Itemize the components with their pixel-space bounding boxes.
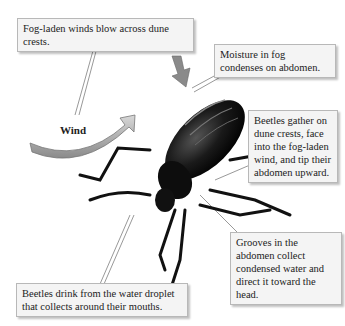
callout-moisture: Moisture in fog condenses on abdomen.	[214, 44, 336, 78]
wind-label: Wind	[60, 124, 86, 136]
callout-gather: Beetles gather on dune crests, face into…	[248, 110, 338, 183]
fog-arrow-icon	[172, 56, 190, 87]
callout-grooves: Grooves in the abdomen collect condensed…	[230, 232, 342, 305]
callout-fog-winds: Fog-laden winds blow across dune crests.	[17, 18, 194, 52]
beetle-illustration	[151, 86, 259, 212]
callout-drink: Beetles drink from the water droplet tha…	[16, 283, 188, 317]
wind-arrow-icon	[30, 115, 135, 158]
